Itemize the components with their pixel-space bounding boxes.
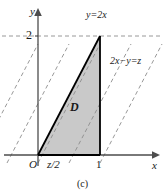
- origin-label: O: [29, 159, 37, 170]
- annotation-hypotenuse-equation: y=2x: [86, 10, 107, 20]
- y-axis-label: y: [30, 6, 35, 17]
- region-label-D: D: [70, 101, 79, 113]
- y-axis-arrow-icon: [34, 8, 42, 16]
- x-tick-label-z-over-2: z/2: [47, 159, 60, 170]
- y-tick-label-2: 2: [26, 29, 32, 41]
- x-axis-label: x: [152, 160, 157, 171]
- annotation-level-line-equation: 2x−y=z: [110, 56, 141, 66]
- x-axis-arrow-icon: [152, 151, 160, 159]
- level-line-1: [0, 44, 38, 163]
- figure-caption: (c): [0, 179, 165, 189]
- plot-canvas: [0, 0, 165, 196]
- x-tick-label-1: 1: [96, 159, 102, 170]
- figure-panel: y x 2 O z/2 1 D y=2x 2x−y=z (c): [0, 0, 165, 196]
